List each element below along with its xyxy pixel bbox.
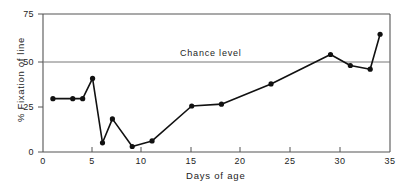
x-tick-label-20: 20 [228,156,252,166]
chance-level-label: Chance level [180,48,242,58]
x-tick-label-30: 30 [328,156,352,166]
axis-frame [43,14,390,152]
data-point [80,96,85,101]
data-point [328,52,333,57]
x-tick-marks [92,147,340,152]
data-point [110,116,115,121]
plot-canvas [0,0,402,196]
x-tick-label-15: 15 [179,156,203,166]
data-point [268,81,273,86]
data-point [130,144,135,149]
data-point [50,96,55,101]
data-point [70,96,75,101]
x-tick-label-10: 10 [129,156,153,166]
data-point [368,67,373,72]
data-point [348,63,353,68]
data-point [189,103,194,108]
y-tick-marks [38,14,43,152]
data-point [219,102,224,107]
x-tick-label-0: 0 [31,156,55,166]
chart-figure: 75 50 25 0 0 5 10 15 20 25 30 35 % Fixat… [0,0,402,196]
data-point [149,138,154,143]
x-tick-label-35: 35 [378,156,402,166]
x-tick-label-5: 5 [80,156,104,166]
data-point [100,140,105,145]
x-tick-label-25: 25 [278,156,302,166]
data-point [90,76,95,81]
data-point [377,32,382,37]
x-axis-label: Days of age [186,170,246,181]
y-axis-label: % Fixation of line [15,5,26,155]
